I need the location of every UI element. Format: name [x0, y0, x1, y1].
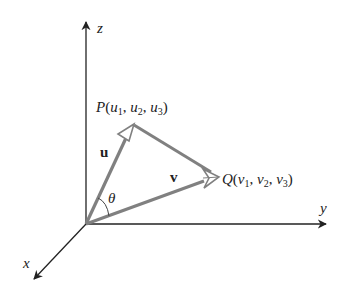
vector-v-label: v	[170, 169, 178, 185]
vector-v	[86, 169, 219, 224]
vector-diagram: z y x P(u1, u2, u3) Q(v1, v2, v3) u v θ	[0, 0, 353, 298]
z-axis-label: z	[96, 20, 103, 36]
x-axis-label: x	[22, 255, 30, 271]
vector-u-arrowhead	[118, 124, 134, 141]
x-axis	[34, 224, 86, 279]
pq-segment	[134, 125, 211, 172]
point-q-label: Q(v1, v2, v3)	[222, 171, 293, 189]
y-axis-label: y	[318, 200, 327, 216]
axes	[34, 22, 326, 279]
angle-theta-label: θ	[108, 190, 116, 206]
vector-u-label: u	[100, 144, 108, 160]
point-p-label: P(u1, u2, u3)	[95, 99, 168, 117]
